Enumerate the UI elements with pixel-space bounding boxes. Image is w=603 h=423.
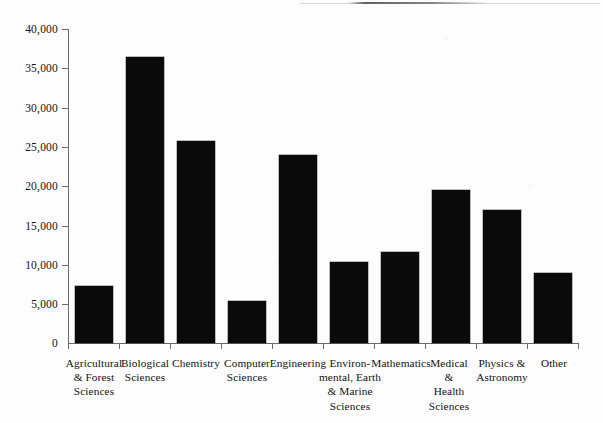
y-tick-30000 <box>62 108 69 109</box>
x-label-line: Sciences <box>113 370 177 384</box>
x-label-line: Sciences <box>60 384 128 398</box>
bar-physics-astronomy <box>483 210 521 343</box>
y-tick-40000 <box>62 29 69 30</box>
bar-biological-sciences <box>126 57 164 343</box>
y-tick-15000 <box>62 226 69 227</box>
x-tick-9 <box>527 344 528 349</box>
x-label-line: Health <box>418 384 480 398</box>
bar-computer-sciences <box>228 301 266 343</box>
x-tick-10 <box>578 344 579 349</box>
y-tick-label-35000: 35,000 <box>25 63 58 75</box>
x-tick-2 <box>170 344 171 349</box>
x-tick-7 <box>425 344 426 349</box>
x-tick-0 <box>68 344 69 349</box>
bar-agricultural-forest-sciences <box>75 286 113 343</box>
y-tick-10000 <box>62 265 69 266</box>
x-label-line: Sciences <box>418 399 480 413</box>
x-tick-8 <box>476 344 477 349</box>
bar-engineering <box>279 155 317 343</box>
chart-page: 40,000 35,000 30,000 25,000 20,000 15,00… <box>0 0 603 423</box>
x-label-line: mental, Earth <box>313 370 387 384</box>
x-label-physics-astronomy: Physics & Astronomy <box>470 356 534 384</box>
x-label-line: & Marine <box>313 384 387 398</box>
bar-chart-plot-area: 40,000 35,000 30,000 25,000 20,000 15,00… <box>0 0 603 423</box>
x-tick-1 <box>119 344 120 349</box>
y-tick-label-0: 0 <box>52 338 58 350</box>
bar-mathematics <box>381 252 419 343</box>
x-label-line: Sciences <box>313 399 387 413</box>
y-tick-label-30000: 30,000 <box>25 103 58 115</box>
y-tick-label-15000: 15,000 <box>25 221 58 233</box>
x-label-line: Physics & <box>470 356 534 370</box>
y-tick-35000 <box>62 68 69 69</box>
y-tick-label-40000: 40,000 <box>25 24 58 36</box>
y-tick-label-25000: 25,000 <box>25 142 58 154</box>
bar-environmental-earth-marine-sciences <box>330 262 368 343</box>
bar-chemistry <box>177 141 215 343</box>
y-tick-20000 <box>62 186 69 187</box>
bar-other <box>534 273 572 343</box>
y-tick-label-20000: 20,000 <box>25 181 58 193</box>
bar-medical-health-sciences <box>432 190 470 343</box>
y-tick-label-10000: 10,000 <box>25 260 58 272</box>
y-tick-5000 <box>62 304 69 305</box>
x-label-other: Other <box>527 356 581 370</box>
x-label-line: Sciences <box>214 370 280 384</box>
x-tick-5 <box>323 344 324 349</box>
y-tick-label-5000: 5,000 <box>31 299 58 311</box>
x-tick-4 <box>272 344 273 349</box>
x-tick-3 <box>221 344 222 349</box>
x-label-line: Astronomy <box>470 370 534 384</box>
y-tick-25000 <box>62 147 69 148</box>
x-label-line: Other <box>527 356 581 370</box>
x-tick-6 <box>374 344 375 349</box>
